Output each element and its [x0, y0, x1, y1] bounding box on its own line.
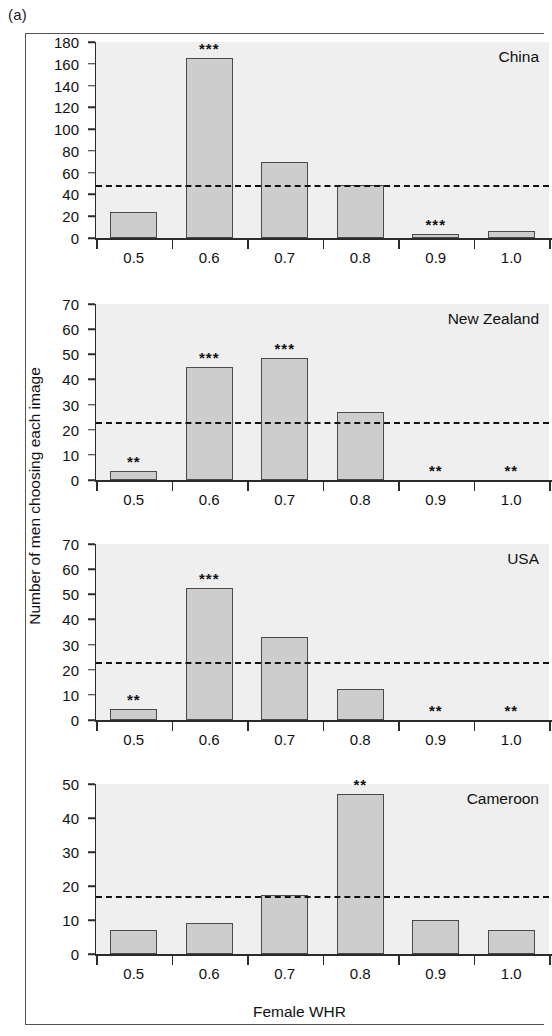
y-tick-label: 10: [62, 687, 79, 702]
y-tick-label: 60: [62, 322, 79, 337]
plot-area: **: [96, 784, 549, 954]
significance-marker: ***: [199, 571, 220, 586]
x-axis-1: 0.50.60.70.80.91.0: [96, 482, 549, 502]
x-tick-label: 1.0: [501, 491, 522, 508]
y-tick-label: 50: [62, 587, 79, 602]
y-tick-label: 20: [62, 879, 79, 894]
x-tick-mark: [549, 482, 551, 491]
bar-0.7: [261, 895, 308, 955]
y-tick-label: 0: [71, 713, 79, 728]
x-axis-3: 0.50.60.70.80.91.0: [96, 956, 549, 976]
bar-cell: **: [398, 544, 474, 720]
x-tick-label: 0.8: [350, 965, 371, 982]
bar-cell: ***: [247, 304, 323, 480]
y-tick-label: 180: [54, 35, 79, 50]
x-tick-label: 0.7: [274, 491, 295, 508]
x-tick-mark: [549, 722, 551, 731]
bar-group: **: [96, 784, 549, 954]
x-tick-label: 0.5: [123, 249, 144, 266]
x-tick-label: 1.0: [501, 249, 522, 266]
bar-cell: ***: [398, 42, 474, 238]
bar-cell: [323, 304, 399, 480]
bar-0.6: [186, 923, 233, 954]
bar-cell: [172, 784, 248, 954]
x-tick-mark: [247, 240, 249, 249]
bar-cell: [247, 42, 323, 238]
x-tick-mark: [247, 722, 249, 731]
bar-cell: [247, 784, 323, 954]
bar-0.6: [186, 58, 233, 238]
bar-cell: [474, 42, 550, 238]
y-tick-label: 120: [54, 100, 79, 115]
y-tick-label: 70: [62, 537, 79, 552]
x-tick-label: 0.9: [425, 491, 446, 508]
bar-0.8: [337, 794, 384, 954]
x-tick-label: 0.5: [123, 731, 144, 748]
y-tick-label: 0: [71, 947, 79, 962]
bar-cell: [323, 42, 399, 238]
y-tick-label: 20: [62, 209, 79, 224]
x-tick-label: 0.5: [123, 491, 144, 508]
bar-0.5: [110, 471, 157, 480]
chart-panel-cameroon: 01020304050**Cameroon0.50.60.70.80.91.0: [46, 778, 549, 1011]
bar-cell: [323, 544, 399, 720]
chart-panel-usa: 010203040506070*********USA0.50.60.70.80…: [46, 538, 549, 778]
y-tick-label: 50: [62, 777, 79, 792]
x-tick-mark: [96, 240, 98, 249]
bar-group: ******: [96, 42, 549, 238]
chart-panel-new-zealand: 010203040506070************New Zealand0.…: [46, 298, 549, 538]
y-tick-label: 50: [62, 347, 79, 362]
bar-cell: [96, 42, 172, 238]
x-tick-mark: [398, 482, 400, 491]
chart-panel-china: 020406080100120140160180******China0.50.…: [46, 36, 549, 298]
x-tick-label: 0.8: [350, 249, 371, 266]
bar-1.0: [488, 930, 535, 954]
x-tick-mark: [172, 722, 174, 731]
y-tick-label: 40: [62, 811, 79, 826]
bar-cell: ***: [172, 42, 248, 238]
x-tick-label: 0.5: [123, 965, 144, 982]
country-label: Cameroon: [467, 790, 539, 808]
x-tick-mark: [96, 722, 98, 731]
x-tick-label: 0.6: [199, 491, 220, 508]
y-tick-label: 30: [62, 845, 79, 860]
y-tick-label: 100: [54, 122, 79, 137]
x-tick-mark: [398, 722, 400, 731]
bar-0.5: [110, 930, 157, 954]
bar-0.7: [261, 637, 308, 720]
bar-0.5: [110, 709, 157, 720]
significance-marker: **: [429, 463, 443, 478]
bar-0.9: [412, 920, 459, 954]
bar-cell: **: [96, 544, 172, 720]
y-tick-label: 20: [62, 662, 79, 677]
y-axis-title: Number of men choosing each image: [26, 196, 44, 796]
y-tick-label: 60: [62, 165, 79, 180]
bar-cell: ***: [172, 304, 248, 480]
x-tick-mark: [474, 240, 476, 249]
bar-1.0: [488, 231, 535, 238]
x-tick-mark: [323, 956, 325, 965]
x-tick-mark: [247, 482, 249, 491]
bar-group: ************: [96, 304, 549, 480]
significance-marker: ***: [199, 41, 220, 56]
bar-cell: [398, 784, 474, 954]
x-tick-mark: [96, 956, 98, 965]
bar-cell: **: [474, 304, 550, 480]
x-tick-label: 0.6: [199, 249, 220, 266]
chance-level-line: [96, 896, 549, 898]
bar-cell: [96, 784, 172, 954]
x-tick-mark: [474, 722, 476, 731]
y-tick-label: 0: [71, 231, 79, 246]
x-tick-label: 1.0: [501, 965, 522, 982]
x-tick-mark: [96, 482, 98, 491]
significance-marker: ***: [199, 350, 220, 365]
x-tick-label: 0.6: [199, 965, 220, 982]
chance-level-line: [96, 422, 549, 424]
y-tick-label: 60: [62, 562, 79, 577]
x-tick-label: 0.7: [274, 965, 295, 982]
x-tick-label: 1.0: [501, 731, 522, 748]
x-tick-label: 0.6: [199, 731, 220, 748]
bar-cell: **: [398, 304, 474, 480]
significance-marker: **: [504, 703, 518, 718]
panel-letter: (a): [8, 6, 27, 23]
